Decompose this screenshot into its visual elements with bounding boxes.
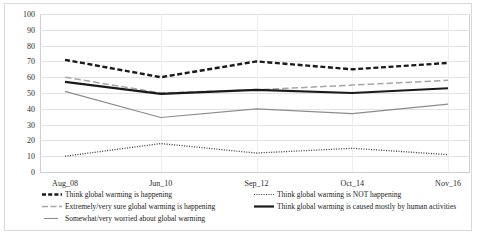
x-tick-label: Aug_08 [52, 179, 78, 188]
y-tick-label: 50 [27, 89, 40, 98]
legend-label-human-activities: Think global warming is caused mostly by… [277, 202, 456, 211]
x-tick-label: Jun_10 [149, 179, 172, 188]
line-chart: 0102030405060708090100 Aug_08Jun_10Sep_1… [0, 0, 477, 246]
y-tick-label: 100 [23, 10, 40, 19]
legend-swatch-dashed-gray-icon [42, 202, 62, 211]
legend-label-happening: Think global warming is happening [65, 190, 172, 199]
legend-item-not-happening: Think global warming is NOT happening [254, 190, 401, 199]
y-tick-label: 90 [27, 25, 40, 34]
y-tick-label: 70 [27, 57, 40, 66]
series-line [65, 144, 448, 157]
y-tick-label: 10 [27, 152, 40, 161]
legend-swatch-solid-gray-icon [42, 214, 62, 223]
legend-row-3: Somewhat/very worried about global warmi… [42, 212, 462, 224]
legend-swatch-thick-dashed-icon [42, 190, 62, 199]
y-tick-label: 30 [27, 120, 40, 129]
chart-legend: Think global warming is happening Think … [42, 188, 462, 224]
x-tick-label: Sep_12 [245, 179, 269, 188]
plot-area: 0102030405060708090100 Aug_08Jun_10Sep_1… [40, 14, 470, 172]
x-tick-label: Nov_16 [435, 179, 461, 188]
legend-label-worried: Somewhat/very worried about global warmi… [65, 214, 205, 223]
series-line [65, 60, 448, 77]
y-tick-label: 20 [27, 136, 40, 145]
legend-item-worried: Somewhat/very worried about global warmi… [42, 214, 254, 223]
legend-row-2: Extremely/very sure global warming is ha… [42, 200, 462, 212]
legend-item-human-activities: Think global warming is caused mostly by… [254, 202, 456, 211]
x-tick-label: Oct_14 [340, 179, 364, 188]
legend-swatch-dotted-icon [254, 190, 274, 199]
y-tick-label: 0 [31, 168, 40, 177]
y-tick-label: 40 [27, 104, 40, 113]
gridline [40, 172, 470, 173]
legend-label-extremely-sure: Extremely/very sure global warming is ha… [65, 202, 215, 211]
y-tick-label: 80 [27, 41, 40, 50]
series-lines [40, 14, 470, 172]
legend-row-1: Think global warming is happening Think … [42, 188, 462, 200]
legend-item-happening: Think global warming is happening [42, 190, 254, 199]
y-tick-label: 60 [27, 73, 40, 82]
legend-label-not-happening: Think global warming is NOT happening [277, 190, 401, 199]
legend-item-extremely-sure: Extremely/very sure global warming is ha… [42, 202, 254, 211]
series-line [65, 91, 448, 117]
legend-swatch-thick-solid-icon [254, 202, 274, 211]
